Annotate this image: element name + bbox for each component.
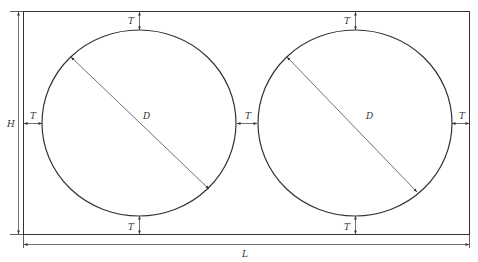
left-side-gap-label: T <box>30 111 37 121</box>
right-diameter-line <box>287 57 417 192</box>
right-bottom-gap-label: T <box>344 222 351 232</box>
middle-gap-label: T <box>245 111 252 121</box>
right-diameter-label: D <box>365 111 373 121</box>
dimension-diagram: H L D D T T T T T T T <box>0 0 478 262</box>
left-circle <box>42 30 236 216</box>
right-side-gap-label: T <box>459 111 466 121</box>
right-top-gap-label: T <box>344 16 351 26</box>
left-diameter-label: D <box>142 111 150 121</box>
right-circle <box>258 30 452 216</box>
length-label: L <box>241 249 248 259</box>
left-diameter-line <box>71 57 209 189</box>
outer-rectangle <box>24 12 470 235</box>
height-label: H <box>6 119 15 129</box>
left-bottom-gap-label: T <box>128 222 135 232</box>
left-top-gap-label: T <box>128 16 135 26</box>
